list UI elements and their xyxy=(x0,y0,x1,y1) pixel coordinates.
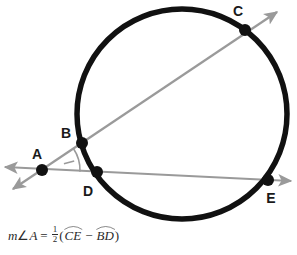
formula-one-half: 1 2 xyxy=(52,225,59,245)
point-b xyxy=(76,137,88,149)
labeled-points-group: ABCDE xyxy=(32,3,276,206)
formula-minus: − xyxy=(85,229,92,242)
circle xyxy=(77,9,287,219)
formula-arc-bd-text: BD xyxy=(97,228,114,243)
point-label-a: A xyxy=(32,146,42,162)
formula-arc-bd: BD xyxy=(96,229,115,242)
point-c xyxy=(239,24,251,36)
formula-numerator: 1 xyxy=(52,225,59,234)
formula-denominator: 2 xyxy=(52,234,59,244)
point-e xyxy=(262,174,274,186)
formula-arc-ce: CE xyxy=(64,229,83,242)
point-label-c: C xyxy=(233,3,243,19)
formula-close-paren: ) xyxy=(115,229,119,242)
formula-arc-ce-text: CE xyxy=(65,228,82,243)
point-label-b: B xyxy=(61,125,71,141)
formula-equals: = xyxy=(40,229,47,242)
point-a xyxy=(36,164,48,176)
point-d xyxy=(91,166,103,178)
geometry-canvas: ABCDE xyxy=(0,0,297,255)
formula-angle-vertex: A xyxy=(29,229,37,242)
point-label-e: E xyxy=(266,190,275,206)
formula-measure-prefix: m xyxy=(8,229,17,242)
geometry-figure: ABCDE m∠A = 1 2 (CE −BD) xyxy=(0,0,297,255)
secant-angle-formula: m∠A = 1 2 (CE −BD) xyxy=(8,226,119,246)
secant-line-a-b-c xyxy=(13,12,277,189)
secant-lines-group xyxy=(5,12,291,189)
point-label-d: D xyxy=(83,183,93,199)
formula-angle-symbol: ∠ xyxy=(17,229,29,242)
